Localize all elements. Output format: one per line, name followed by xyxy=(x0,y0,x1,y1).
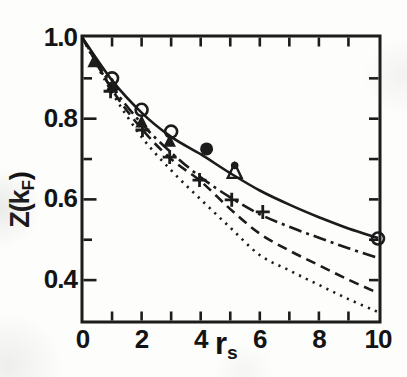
x-tick-label: 6 xyxy=(238,325,282,354)
y-tick-label: 0.4 xyxy=(29,265,77,294)
dashed-curve xyxy=(83,38,379,293)
y-tick-label: 1.0 xyxy=(29,23,77,52)
scanned-physics-figure: 1.00.80.60.40246810 Z(kF) rs xyxy=(0,0,407,377)
plot-ink-group xyxy=(82,36,384,322)
x-tick-label: 10 xyxy=(356,325,400,354)
y-axis-title-main: Z(k xyxy=(5,190,35,228)
x-axis-title: rs xyxy=(215,326,238,364)
filled-circle-point xyxy=(200,142,213,155)
x-axis-title-subscript: s xyxy=(227,342,238,363)
y-axis-title: Z(kF) xyxy=(5,172,39,228)
x-tick-label: 8 xyxy=(297,325,341,354)
y-axis-title-close: ) xyxy=(5,172,35,180)
y-axis-title-subscript: F xyxy=(19,180,38,190)
dash-dot-curve xyxy=(83,38,379,258)
open-triangle-dotted-apex-point-apex-dot xyxy=(231,162,239,170)
plus-points xyxy=(163,150,177,164)
x-tick-label: 2 xyxy=(120,325,164,354)
y-tick-label: 0.8 xyxy=(29,104,77,133)
x-axis-title-main: r xyxy=(215,326,227,361)
x-tick-label: 0 xyxy=(61,325,105,354)
